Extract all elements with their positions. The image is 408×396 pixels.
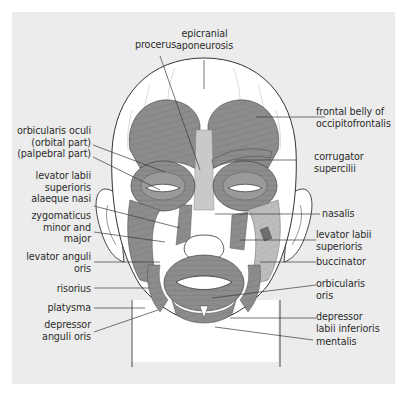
label-nasalis: nasalis <box>322 208 354 220</box>
procerus-muscle <box>194 130 214 210</box>
label-platysma: platysma <box>48 302 92 314</box>
label-levator-anguli-oris: levator anguli oris <box>26 251 91 274</box>
label-mentalis: mentalis <box>316 336 357 348</box>
label-orbicularis-oris: orbicularis oris <box>316 278 365 301</box>
label-zygomaticus-minor-and-major: zygomaticus minor and major <box>31 210 91 245</box>
label-frontal-belly-of-occipitofrontalis: frontal belly of occipitofrontalis <box>316 106 391 129</box>
label-buccinator: buccinator <box>316 256 366 268</box>
label-orbicularis-oculi: orbicularis oculi (orbital part) (palpeb… <box>17 125 91 160</box>
label-levator-labii-superioris-alaeque-nasi: levator labii superioris alaeque nasi <box>31 170 91 205</box>
label-levator-labii-superioris: levator labii superioris <box>316 229 371 252</box>
label-depressor-anguli-oris: depressor anguli oris <box>42 319 91 342</box>
label-corrugator-supercilii: corrugator supercilii <box>314 151 364 174</box>
orbicularis-oris-muscle <box>164 255 244 323</box>
label-depressor-labii-inferioris: depressor labii inferioris <box>316 311 380 334</box>
label-epicranial-aponeurosis: epicranial aponeurosis <box>176 28 233 51</box>
label-risorius: risorius <box>57 283 91 295</box>
label-procerus: procerus <box>135 39 176 51</box>
